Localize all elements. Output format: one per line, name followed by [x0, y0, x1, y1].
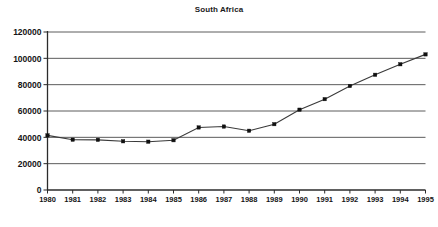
data-point-marker: [247, 129, 250, 132]
data-point-marker: [147, 140, 150, 143]
data-point-marker: [273, 122, 276, 125]
data-point-marker: [424, 53, 427, 56]
y-tick-label: 0: [37, 185, 42, 195]
data-point-marker: [121, 140, 124, 143]
x-axis-tick-labels: 1980198119821983198419851986198719881989…: [39, 195, 434, 204]
x-tick-label: 1982: [90, 195, 107, 204]
data-point-markers: [46, 53, 427, 144]
data-point-marker: [298, 108, 301, 111]
data-point-marker: [96, 138, 99, 141]
data-series-line: [48, 54, 426, 141]
data-point-marker: [71, 138, 74, 141]
data-point-marker: [323, 97, 326, 100]
x-tick-label: 1992: [342, 195, 359, 204]
y-tick-label: 80000: [18, 80, 42, 90]
data-point-marker: [172, 139, 175, 142]
y-tick-label: 120000: [13, 27, 42, 37]
data-point-marker: [373, 73, 376, 76]
x-tick-label: 1987: [216, 195, 233, 204]
y-tick-label: 20000: [18, 159, 42, 169]
chart-container: South Africa 020000400006000080000100000…: [0, 0, 438, 227]
y-tick-label: 100000: [13, 54, 42, 64]
x-tick-label: 1981: [64, 195, 81, 204]
x-tick-label: 1989: [266, 195, 283, 204]
x-tick-label: 1994: [392, 195, 410, 204]
x-tick-label: 1988: [241, 195, 258, 204]
x-tick-label: 1983: [115, 195, 132, 204]
x-tick-label: 1995: [417, 195, 434, 204]
data-point-marker: [222, 125, 225, 128]
data-point-marker: [197, 126, 200, 129]
data-point-marker: [399, 63, 402, 66]
x-tick-label: 1990: [291, 195, 308, 204]
gridlines: [48, 32, 426, 164]
x-tick-label: 1991: [316, 195, 333, 204]
x-tick-label: 1984: [140, 195, 158, 204]
x-tick-label: 1993: [367, 195, 384, 204]
y-axis-tick-labels: 020000400006000080000100000120000: [13, 27, 47, 195]
x-tick-label: 1985: [165, 195, 182, 204]
y-tick-label: 40000: [18, 133, 42, 143]
x-tick-label: 1986: [190, 195, 207, 204]
data-point-marker: [348, 84, 351, 87]
line-chart-plot: 020000400006000080000100000120000 198019…: [0, 0, 438, 227]
y-tick-label: 60000: [18, 106, 42, 116]
x-tick-label: 1980: [39, 195, 56, 204]
data-point-marker: [46, 134, 49, 137]
